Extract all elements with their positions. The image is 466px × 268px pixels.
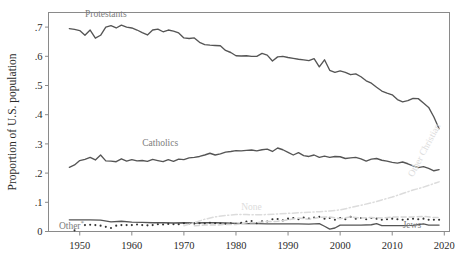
y-tick-label: .5 <box>35 80 43 91</box>
data-point-marker <box>428 219 430 221</box>
data-point-marker <box>422 218 424 220</box>
x-tick-label: 1990 <box>278 240 299 251</box>
series-path <box>69 25 439 129</box>
y-tick-label: .7 <box>35 22 43 33</box>
religion-proportion-line-chart: Proportion of U.S. population 0.1.2.3.4.… <box>0 0 466 268</box>
data-point-marker <box>334 219 336 221</box>
x-axis-ticks: 19501960197019801990200020102020 <box>69 232 455 251</box>
y-axis-title-text: Proportion of U.S. population <box>6 53 19 190</box>
y-tick-label: .2 <box>35 168 43 179</box>
data-point-marker <box>162 223 164 225</box>
series-path <box>69 220 439 229</box>
x-tick-label: 2000 <box>330 240 351 251</box>
y-tick-label: .1 <box>35 197 43 208</box>
data-point-marker <box>146 224 148 226</box>
data-point-marker <box>105 226 107 228</box>
y-tick-label: .3 <box>35 139 43 150</box>
data-point-marker <box>198 222 200 224</box>
data-point-marker <box>120 224 122 226</box>
data-point-marker <box>131 224 133 226</box>
data-point-marker <box>172 223 174 225</box>
chart-figure: Proportion of U.S. population 0.1.2.3.4.… <box>0 0 466 268</box>
x-tick-label: 1980 <box>225 240 246 251</box>
data-point-marker <box>136 223 138 225</box>
y-tick-label: .4 <box>35 109 44 120</box>
series-path <box>184 182 439 226</box>
data-point-marker <box>381 219 383 221</box>
series-label-catholics: Catholics <box>142 138 178 148</box>
data-point-marker <box>152 224 154 226</box>
series-path <box>69 148 439 171</box>
series-label-none: None <box>241 202 262 212</box>
data-point-marker <box>214 222 216 224</box>
data-point-marker <box>157 223 159 225</box>
x-tick-label: 2020 <box>434 240 455 251</box>
data-point-marker <box>84 224 86 226</box>
data-point-marker <box>178 223 180 225</box>
data-point-marker <box>396 218 398 220</box>
data-point-marker <box>110 227 112 229</box>
data-point-marker <box>386 218 388 220</box>
data-point-marker <box>277 218 279 220</box>
data-point-marker <box>251 220 253 222</box>
data-point-marker <box>115 225 117 227</box>
data-point-marker <box>209 222 211 224</box>
x-tick-label: 1950 <box>69 240 90 251</box>
x-tick-label: 2010 <box>382 240 403 251</box>
data-point-marker <box>89 224 91 226</box>
data-point-marker <box>167 223 169 225</box>
series-lines <box>69 25 440 231</box>
data-point-marker <box>433 219 435 221</box>
plot-frame <box>49 13 450 232</box>
y-tick-label: 0 <box>37 226 42 237</box>
data-point-marker <box>438 219 440 221</box>
data-point-marker <box>94 224 96 226</box>
y-axis-title: Proportion of U.S. population <box>6 53 19 190</box>
series-label-other: Other* <box>59 219 85 231</box>
series-annotations: ProtestantsCatholicsJewsOther*NoneOther … <box>59 9 443 231</box>
data-point-marker <box>100 225 102 227</box>
y-tick-label: .6 <box>35 51 43 62</box>
x-tick-label: 1970 <box>173 240 194 251</box>
x-tick-label: 1960 <box>121 240 142 251</box>
data-point-marker <box>126 224 128 226</box>
data-point-marker <box>141 224 143 226</box>
data-point-marker <box>271 218 273 220</box>
series-label-jews: Jews <box>403 220 422 230</box>
series-label-protestants: Protestants <box>85 9 127 19</box>
data-point-marker <box>183 222 185 224</box>
y-axis-ticks: 0.1.2.3.4.5.6.7 <box>35 22 49 237</box>
data-point-marker <box>391 218 393 220</box>
